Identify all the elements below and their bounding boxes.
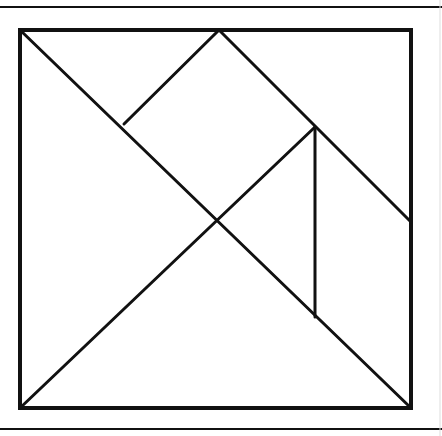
tangram-diagram bbox=[0, 0, 442, 436]
